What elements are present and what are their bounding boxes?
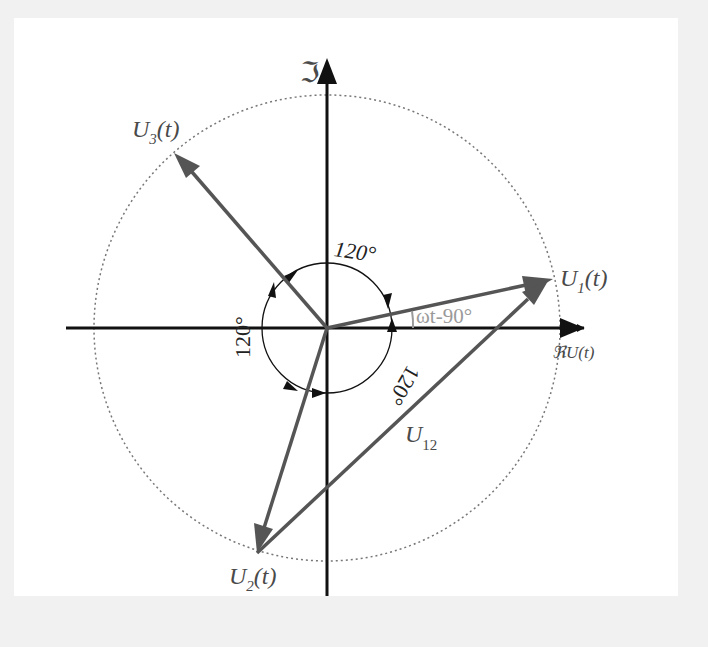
phase-angle-arc (412, 311, 413, 328)
angle-arrow-bottom (312, 388, 326, 398)
u1-label: U1(t) (560, 265, 608, 296)
angle-arrow-top-right (383, 293, 392, 309)
phasor-u3 (192, 172, 327, 328)
angle-label-top: 120° (333, 236, 378, 267)
angle-label-left: 120° (230, 316, 255, 358)
u12-label: U12 (405, 421, 437, 453)
phasor-diagram: ℑ ℜU(t) U3(t) U1(t) U2(t) U12 120° 120° … (0, 0, 708, 647)
real-axis-arrowhead (560, 318, 584, 338)
real-axis-label: ℜU(t) (552, 343, 595, 362)
phase-angle-label: ωt-90° (416, 304, 472, 328)
imag-axis-arrowhead (317, 58, 337, 84)
u2-label: U2(t) (229, 563, 277, 594)
imag-axis-label: ℑ (300, 57, 320, 88)
angle-arrow-right (387, 318, 397, 332)
u3-label: U3(t) (132, 116, 180, 147)
angle-arrow-left (268, 282, 276, 298)
